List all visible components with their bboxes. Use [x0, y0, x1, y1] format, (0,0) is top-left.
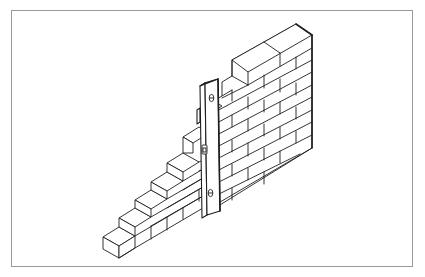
wall-face	[215, 24, 312, 208]
bottom-vial	[208, 189, 213, 196]
brick-wall-illustration	[0, 0, 425, 277]
middle-vial	[202, 145, 207, 154]
top-vial	[209, 94, 214, 101]
